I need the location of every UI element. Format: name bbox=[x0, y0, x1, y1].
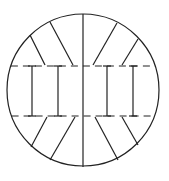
i-beam bbox=[129, 66, 137, 116]
diagonal-bottom-left-inner bbox=[50, 117, 75, 160]
diagonal-bottom-right-outer bbox=[122, 117, 138, 145]
i-beam bbox=[54, 66, 62, 116]
diagonal-top-right-inner bbox=[93, 23, 117, 65]
i-beam bbox=[28, 66, 36, 116]
sectioned-circle-diagram bbox=[0, 0, 169, 181]
i-beam bbox=[103, 66, 111, 116]
diagonal-bottom-right-inner bbox=[95, 117, 118, 160]
diagonal-top-right-outer bbox=[122, 39, 138, 65]
diagonal-top-left-outer bbox=[30, 35, 45, 65]
diagonal-top-left-inner bbox=[50, 22, 73, 65]
diagonal-lines bbox=[30, 22, 138, 160]
diagonal-bottom-left-outer bbox=[31, 117, 47, 147]
